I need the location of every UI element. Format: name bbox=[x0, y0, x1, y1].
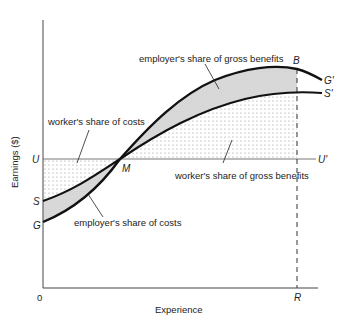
point-g-prime: G' bbox=[324, 75, 335, 86]
point-s: S bbox=[33, 196, 40, 207]
point-b: B bbox=[293, 55, 300, 66]
x-axis-label: Experience bbox=[155, 304, 203, 315]
label-worker-costs: worker's share of costs bbox=[47, 116, 145, 127]
leader-worker-costs bbox=[77, 130, 89, 163]
earnings-experience-diagram: employer's share of gross benefits worke… bbox=[0, 0, 349, 324]
label-employer-costs: employer's share of costs bbox=[74, 217, 182, 228]
point-s-prime: S' bbox=[324, 88, 334, 99]
label-worker-benefits: worker's share of gross benefits bbox=[174, 170, 309, 181]
point-g: G bbox=[33, 220, 41, 231]
leader-employer-costs bbox=[88, 194, 103, 217]
y-axis-label: Earnings ($) bbox=[9, 136, 20, 188]
label-employer-benefits: employer's share of gross benefits bbox=[139, 53, 284, 64]
point-u-prime: U' bbox=[318, 154, 328, 165]
point-u: U bbox=[32, 154, 40, 165]
point-r: R bbox=[294, 292, 301, 303]
origin-label: 0 bbox=[37, 292, 42, 303]
point-m: M bbox=[122, 163, 131, 174]
